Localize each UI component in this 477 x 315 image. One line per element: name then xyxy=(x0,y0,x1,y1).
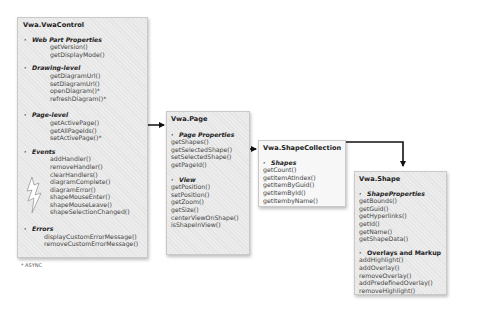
method-item: removeCustomErrorMessage() xyxy=(18,240,147,248)
method-item: addHighlight() xyxy=(355,256,446,264)
method-item: setActivePage()* xyxy=(18,134,147,142)
method-item: getAllPageIds() xyxy=(18,127,147,135)
box-title: Vwa.Shape xyxy=(359,176,446,184)
method-item: getItembyName() xyxy=(259,197,345,205)
method-item: getCount() xyxy=(259,166,345,174)
section-page-level: ·Page-level getActivePage() getAllPageId… xyxy=(18,111,147,141)
method-item: getId() xyxy=(355,220,446,228)
method-item: addHandler() xyxy=(18,155,147,163)
section-page-properties: ·Page Properties getShapes() getSelected… xyxy=(167,131,249,169)
method-item: getHyperlinks() xyxy=(355,212,446,220)
lightning-icon xyxy=(26,177,42,213)
section-label: Drawing-level xyxy=(32,64,80,71)
method-item: getGuid() xyxy=(355,205,446,213)
section-label: Page-level xyxy=(32,111,68,118)
bullet-icon: · xyxy=(171,131,179,139)
box-title: Vwa.Page xyxy=(171,116,249,124)
box-title: Vwa.ShapeCollection xyxy=(263,145,345,153)
method-item: getName() xyxy=(355,228,446,236)
box-title: Vwa.VwaControl xyxy=(23,22,147,30)
method-item: getItemAtIndex() xyxy=(259,174,345,182)
method-item: removeHandler() xyxy=(18,163,147,171)
method-item: getItemById() xyxy=(259,189,345,197)
vwa-page-box: Vwa.Page ·Page Properties getShapes() ge… xyxy=(166,111,250,255)
bullet-icon: · xyxy=(24,148,32,156)
section-errors: ·Errors displayCustomErrorMessage() remo… xyxy=(18,225,147,248)
method-item: getZoom() xyxy=(167,198,249,206)
method-item: setDiagramUrl() xyxy=(18,80,147,88)
method-item: getShapeData() xyxy=(355,235,446,243)
method-item: centerViewOnShape() xyxy=(167,214,249,222)
method-item: isShapeInView() xyxy=(167,221,249,229)
method-item: addPredefinedOverlay() xyxy=(355,279,446,287)
section-view: ·View getPosition() setPosition() getZoo… xyxy=(167,176,249,229)
section-shape-properties: ·ShapeProperties getBounds() getGuid() g… xyxy=(355,190,446,243)
method-item: getVersion() xyxy=(18,43,147,51)
method-item: getDiagramUrl() xyxy=(18,72,147,80)
bullet-icon: · xyxy=(24,64,32,72)
section-drawing-level: ·Drawing-level getDiagramUrl() setDiagra… xyxy=(18,64,147,102)
bullet-icon: · xyxy=(171,176,179,184)
method-item: removeOverlay() xyxy=(355,272,446,280)
bullet-icon: · xyxy=(263,159,271,167)
section-label: Page Properties xyxy=(179,131,234,138)
bullet-icon: · xyxy=(359,249,367,257)
method-item: getActivePage() xyxy=(18,119,147,127)
section-overlays-and-markup: ·Overlays and Markup addHighlight() addO… xyxy=(355,249,446,295)
method-item: getBounds() xyxy=(355,197,446,205)
method-item: displayCustomErrorMessage() xyxy=(18,233,147,241)
method-item: getPosition() xyxy=(167,183,249,191)
method-item: getItemByGuid() xyxy=(259,181,345,189)
method-item: setPosition() xyxy=(167,191,249,199)
section-label: Overlays and Markup xyxy=(367,249,441,256)
section-label: Errors xyxy=(32,225,53,232)
section-label: Shapes xyxy=(271,159,296,166)
async-footnote: * ASYNC xyxy=(21,262,42,268)
method-item: getSize() xyxy=(167,206,249,214)
section-web-part-properties: ·Web Part Properties getVersion() getDis… xyxy=(18,36,147,59)
vwa-shapecollection-box: Vwa.ShapeCollection ·Shapes getCount() g… xyxy=(258,140,346,207)
method-item: getShapes() xyxy=(167,138,249,146)
vwa-shape-box: Vwa.Shape ·ShapeProperties getBounds() g… xyxy=(354,171,447,295)
bullet-icon: · xyxy=(24,36,32,44)
vwa-control-box: Vwa.VwaControl ·Web Part Properties getV… xyxy=(17,17,148,258)
method-item: refreshDiagram()* xyxy=(18,95,147,103)
bullet-icon: · xyxy=(359,190,367,198)
method-item: getPageId() xyxy=(167,161,249,169)
section-label: ShapeProperties xyxy=(367,190,425,197)
bullet-icon: · xyxy=(24,111,32,119)
section-label: Web Part Properties xyxy=(32,36,102,43)
method-item: openDiagram()* xyxy=(18,87,147,95)
section-label: View xyxy=(179,176,196,183)
method-item: getDisplayMode() xyxy=(18,51,147,59)
bullet-icon: · xyxy=(24,225,32,233)
method-item: setSelectedShape() xyxy=(167,153,249,161)
section-label: Events xyxy=(32,148,56,155)
method-item: getSelectedShape() xyxy=(167,146,249,154)
method-item: removeHighlight() xyxy=(355,287,446,295)
method-item: addOverlay() xyxy=(355,264,446,272)
section-shapes: ·Shapes getCount() getItemAtIndex() getI… xyxy=(259,159,345,205)
